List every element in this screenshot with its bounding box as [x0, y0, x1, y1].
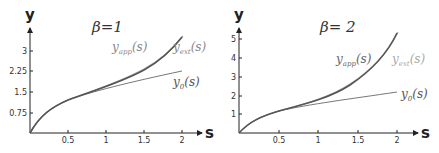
y-tick-label: 5 — [231, 35, 236, 44]
chart-title: β= 2 — [319, 18, 356, 36]
curve-y0 — [239, 92, 397, 133]
x-axis-label: s — [421, 124, 430, 142]
label-y-ext: yext(s) — [172, 40, 207, 56]
y-tick-label: 1 — [231, 110, 236, 119]
y-tick-label: 4 — [231, 54, 236, 63]
x-tick-label: 0.5 — [62, 136, 75, 145]
curve-y0 — [30, 71, 182, 133]
x-axis-label: s — [205, 124, 214, 142]
y-tick-label: 3 — [231, 73, 236, 82]
y-axis-label: y — [25, 6, 35, 24]
label-y0: y0(s) — [172, 75, 200, 91]
label-y0: y0(s) — [400, 87, 428, 103]
x-ticks: 0.5 1 1.5 2 — [273, 130, 400, 145]
label-y-app: yapp(s) — [111, 40, 148, 56]
x-tick-label: 1 — [315, 136, 320, 145]
x-tick-label: 2 — [394, 136, 399, 145]
label-y-app: yapp(s) — [335, 52, 372, 68]
x-tick-label: 2 — [179, 136, 184, 145]
curve-y-ext — [30, 36, 183, 133]
y-tick-label: 1.5 — [14, 88, 27, 97]
x-tick-label: 1.5 — [352, 136, 365, 145]
x-tick-label: 0.5 — [273, 136, 286, 145]
y-tick-label: 3 — [22, 47, 27, 56]
label-y-ext: yext(s) — [391, 52, 426, 68]
y-tick-label: 0.75 — [9, 109, 27, 118]
y-tick-label: 2 — [231, 92, 236, 101]
curve-y-app — [30, 37, 182, 133]
x-tick-label: 1 — [103, 136, 108, 145]
x-tick-label: 1.5 — [138, 136, 151, 145]
chart-beta-1: y s 3 2.25 1.5 0.75 0.5 1 1.5 2 β=1 yapp… — [9, 6, 214, 145]
y-ticks: 3 2.25 1.5 0.75 — [9, 47, 33, 118]
x-ticks: 0.5 1 1.5 2 — [62, 130, 185, 145]
chart-beta-2: y s 5 4 3 2 1 0.5 1 1.5 2 β= 2 y — [231, 6, 430, 145]
figure: y s 3 2.25 1.5 0.75 0.5 1 1.5 2 β=1 yapp… — [0, 0, 439, 153]
y-tick-label: 2.25 — [9, 67, 27, 76]
chart-title: β=1 — [91, 18, 123, 36]
curve-y-ext — [239, 32, 398, 133]
y-axis-label: y — [234, 6, 244, 24]
curve-y-app — [239, 33, 397, 133]
y-ticks: 5 4 3 2 1 — [231, 35, 242, 119]
